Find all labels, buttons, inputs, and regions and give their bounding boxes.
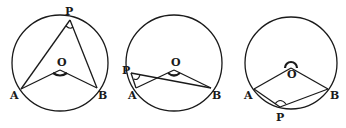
figure-2: P O A B <box>122 15 222 111</box>
label-p: P <box>122 64 130 77</box>
label-b: B <box>212 89 221 102</box>
label-o: O <box>57 56 67 69</box>
label-p: P <box>65 5 73 18</box>
angle-p-arc <box>275 101 286 105</box>
label-a: A <box>243 89 253 102</box>
chord-pb <box>70 20 97 88</box>
label-b: B <box>98 89 107 102</box>
label-a: A <box>9 89 19 102</box>
label-a: A <box>127 89 137 102</box>
circle-theorem-diagram: P O A B P O A B O A B P <box>0 0 346 128</box>
label-o: O <box>171 56 181 69</box>
radius-oa <box>254 68 291 89</box>
angle-aob-arc <box>53 73 67 76</box>
angle-aob-arc <box>168 73 180 76</box>
label-b: B <box>330 89 339 102</box>
label-o: O <box>287 68 297 81</box>
label-p: P <box>276 111 284 124</box>
figure-3: O A B P <box>243 17 339 124</box>
chord-pa <box>21 20 70 89</box>
chord-pa <box>254 89 280 107</box>
angle-p-arc <box>134 75 140 80</box>
figure-1: P O A B <box>9 5 108 111</box>
